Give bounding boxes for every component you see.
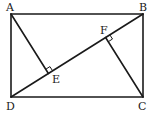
label-C: C <box>138 100 146 113</box>
label-E: E <box>52 73 60 86</box>
perpendicular-AE <box>11 14 48 74</box>
label-A: A <box>5 1 15 14</box>
geometry-diagram: A B C D E F <box>0 0 155 115</box>
label-D: D <box>6 100 15 113</box>
perpendicular-CF <box>106 38 143 98</box>
label-F: F <box>100 24 108 37</box>
label-B: B <box>139 1 147 14</box>
diagonal-BD <box>11 14 143 97</box>
